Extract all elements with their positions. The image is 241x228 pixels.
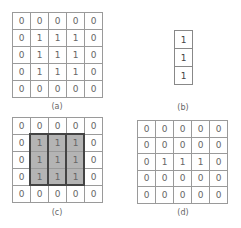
matrix-row: 00000 (13, 186, 103, 203)
matrix-row: 1 (175, 49, 193, 67)
matrix-cell: 0 (85, 186, 103, 203)
matrix-cell: 0 (85, 81, 103, 98)
matrix-cell: 0 (138, 154, 156, 171)
caption-d: (d) (168, 208, 198, 217)
matrix-d: 0000000000011100000000000 (137, 120, 228, 204)
matrix-cell: 0 (49, 186, 67, 203)
matrix-cell: 0 (85, 47, 103, 64)
matrix-row: 01110 (13, 30, 103, 47)
matrix-cell: 1 (156, 154, 174, 171)
matrix-row: 00000 (13, 118, 103, 135)
matrix-cell: 1 (67, 64, 85, 81)
matrix-cell: 0 (13, 47, 31, 64)
matrix-row: 1 (175, 31, 193, 49)
matrix-c: 0000001110011100111000000 (12, 117, 103, 203)
matrix-row: 1 (175, 67, 193, 85)
matrix-cell: 1 (174, 154, 192, 171)
matrix-cell: 0 (210, 170, 228, 187)
matrix-cell: 0 (138, 170, 156, 187)
caption-b: (b) (168, 103, 198, 112)
matrix-cell: 0 (85, 152, 103, 169)
matrix-row: 01110 (13, 64, 103, 81)
matrix-cell: 0 (138, 137, 156, 154)
matrix-cell: 0 (49, 118, 67, 135)
matrix-cell: 0 (85, 118, 103, 135)
matrix-cell: 0 (31, 81, 49, 98)
matrix-cell: 0 (156, 137, 174, 154)
matrix-cell: 1 (192, 154, 210, 171)
matrix-cell: 0 (174, 170, 192, 187)
matrix-cell: 1 (31, 135, 49, 152)
matrix-row: 01110 (13, 152, 103, 169)
matrix-cell: 1 (67, 152, 85, 169)
matrix-cell: 0 (85, 169, 103, 186)
matrix-cell: 0 (31, 118, 49, 135)
matrix-cell: 0 (13, 30, 31, 47)
matrix-cell: 0 (210, 137, 228, 154)
matrix-cell: 1 (49, 169, 67, 186)
matrix-cell: 1 (49, 47, 67, 64)
matrix-cell: 0 (13, 118, 31, 135)
matrix-cell: 1 (175, 49, 193, 67)
matrix-cell: 0 (174, 137, 192, 154)
matrix-cell: 0 (210, 121, 228, 138)
matrix-row: 01110 (13, 135, 103, 152)
matrix-cell: 1 (175, 31, 193, 49)
matrix-cell: 1 (49, 30, 67, 47)
matrix-cell: 0 (67, 186, 85, 203)
matrix-cell: 0 (67, 13, 85, 30)
matrix-cell: 1 (67, 135, 85, 152)
matrix-row: 00000 (13, 13, 103, 30)
matrix-row: 01110 (13, 169, 103, 186)
matrix-cell: 0 (156, 187, 174, 204)
matrix-cell: 1 (49, 64, 67, 81)
matrix-cell: 0 (49, 13, 67, 30)
matrix-cell: 1 (67, 169, 85, 186)
matrix-row: 00000 (138, 121, 228, 138)
matrix-cell: 0 (192, 121, 210, 138)
matrix-cell: 0 (192, 187, 210, 204)
matrix-row: 00000 (138, 137, 228, 154)
matrix-cell: 0 (138, 187, 156, 204)
kernel-b: 111 (174, 30, 193, 85)
matrix-cell: 0 (13, 81, 31, 98)
matrix-cell: 0 (13, 13, 31, 30)
matrix-cell: 0 (138, 121, 156, 138)
matrix-cell: 1 (31, 64, 49, 81)
matrix-cell: 0 (49, 81, 67, 98)
matrix-cell: 1 (175, 67, 193, 85)
matrix-cell: 0 (156, 170, 174, 187)
matrix-cell: 0 (85, 30, 103, 47)
matrix-cell: 0 (85, 64, 103, 81)
caption-a: (a) (42, 102, 72, 111)
matrix-row: 01110 (13, 47, 103, 64)
matrix-cell: 1 (67, 47, 85, 64)
matrix-cell: 0 (13, 64, 31, 81)
matrix-cell: 1 (49, 135, 67, 152)
matrix-cell: 0 (174, 121, 192, 138)
matrix-a: 0000001110011100111000000 (12, 12, 103, 98)
matrix-cell: 0 (31, 186, 49, 203)
matrix-cell: 1 (31, 169, 49, 186)
matrix-cell: 0 (156, 121, 174, 138)
matrix-cell: 1 (31, 47, 49, 64)
matrix-cell: 0 (13, 135, 31, 152)
matrix-row: 00000 (13, 81, 103, 98)
matrix-cell: 0 (67, 81, 85, 98)
matrix-cell: 0 (13, 152, 31, 169)
matrix-cell: 0 (13, 186, 31, 203)
matrix-row: 00000 (138, 187, 228, 204)
matrix-cell: 0 (85, 13, 103, 30)
matrix-cell: 0 (13, 169, 31, 186)
matrix-cell: 0 (210, 187, 228, 204)
matrix-cell: 0 (85, 135, 103, 152)
caption-c: (c) (42, 208, 72, 217)
matrix-cell: 0 (31, 13, 49, 30)
matrix-cell: 0 (192, 170, 210, 187)
matrix-cell: 0 (174, 187, 192, 204)
matrix-cell: 0 (192, 137, 210, 154)
matrix-cell: 1 (49, 152, 67, 169)
matrix-cell: 1 (31, 152, 49, 169)
matrix-cell: 0 (210, 154, 228, 171)
matrix-row: 00000 (138, 170, 228, 187)
